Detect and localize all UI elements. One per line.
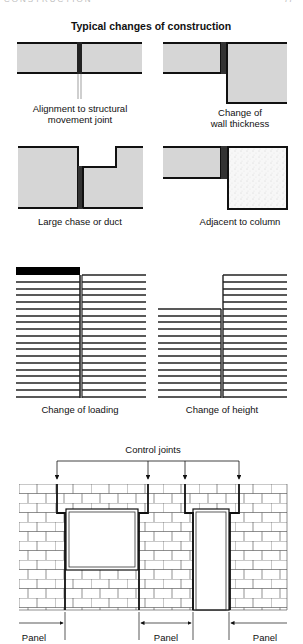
loading-diagram: [16, 267, 146, 398]
brick-wall: [19, 484, 287, 610]
control-joint-leaders: [57, 461, 239, 479]
panel-label-left: Panel: [22, 632, 46, 643]
chase-duct-diagram: [18, 147, 143, 209]
panel-label-middle: Panel: [154, 632, 178, 643]
construction-diagrams: Typical changes of construction Alignmen…: [0, 0, 303, 644]
caption-column: Adjacent to column: [200, 216, 281, 227]
movement-joint-diagram: [17, 42, 142, 99]
caption-chase-duct: Large chase or duct: [38, 216, 122, 227]
caption-movement-joint-1: Alignment to structural: [33, 103, 128, 114]
caption-loading: Change of loading: [41, 404, 118, 415]
caption-height: Change of height: [186, 404, 259, 415]
height-diagram: [158, 275, 287, 398]
column-diagram: [163, 146, 287, 209]
wall-thickness-diagram: [163, 42, 287, 103]
panel-label-right: Panel: [253, 632, 277, 643]
diagram-title: Typical changes of construction: [71, 20, 231, 32]
caption-wall-thickness-2: wall thickness: [210, 118, 270, 129]
caption-movement-joint-2: movement joint: [48, 114, 113, 125]
caption-wall-thickness-1: Change of: [218, 107, 262, 118]
control-joints-label: Control joints: [125, 444, 181, 455]
